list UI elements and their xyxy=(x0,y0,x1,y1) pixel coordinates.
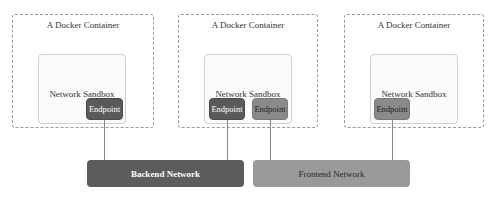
link-ep3-frontend xyxy=(392,120,393,160)
backend-network: Backend Network xyxy=(87,160,244,187)
endpoint-backend-2: Endpoint xyxy=(209,98,245,120)
container-label: A Docker Container xyxy=(345,20,483,30)
link-ep1-backend xyxy=(104,120,105,160)
endpoint-backend-1: Endpoint xyxy=(86,98,123,120)
frontend-network: Frontend Network xyxy=(253,160,410,187)
container-label: A Docker Container xyxy=(13,20,153,30)
endpoint-frontend-2: Endpoint xyxy=(252,98,288,120)
container-label: A Docker Container xyxy=(179,20,317,30)
link-ep2-frontend xyxy=(270,120,271,160)
endpoint-frontend-3: Endpoint xyxy=(374,98,410,120)
link-ep2-backend xyxy=(227,120,228,160)
